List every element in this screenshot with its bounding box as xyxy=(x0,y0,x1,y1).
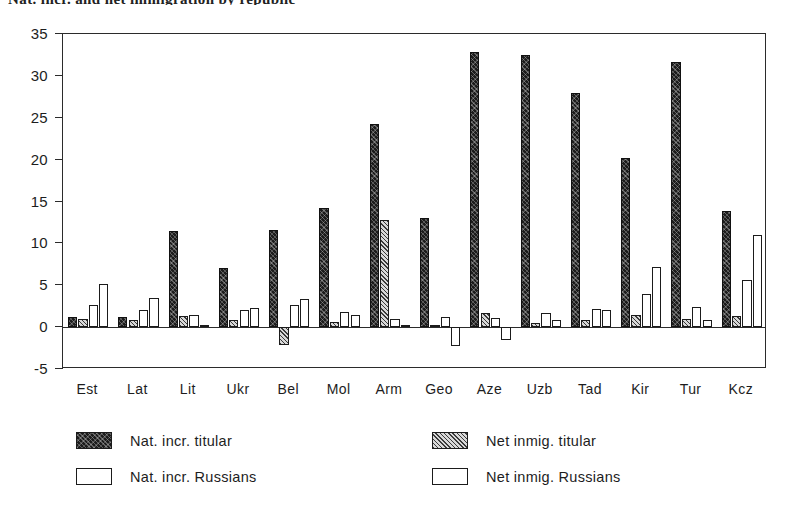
bar-nat-incr-russians xyxy=(89,305,98,327)
bar-net-inmig-russians xyxy=(99,284,108,328)
bar-net-inmig-russians xyxy=(652,267,661,327)
bar-net-inmig-titular xyxy=(682,319,691,327)
legend-label: Net inmig. titular xyxy=(486,433,596,449)
bar-net-inmig-titular xyxy=(531,323,540,327)
plot-inner xyxy=(63,34,765,367)
bar-nat-incr-russians xyxy=(240,310,249,328)
bar-net-inmig-russians xyxy=(149,298,158,327)
bar-nat-incr-titular xyxy=(722,211,731,327)
bar-nat-incr-titular xyxy=(219,268,228,327)
bar-net-inmig-titular xyxy=(481,313,490,327)
bar-net-inmig-russians xyxy=(300,299,309,327)
bar-nat-incr-russians xyxy=(139,310,148,327)
bar-net-inmig-titular xyxy=(430,325,439,328)
bar-net-inmig-russians xyxy=(451,327,460,345)
y-tick-label-30: 30 xyxy=(2,66,48,83)
bar-net-inmig-russians xyxy=(401,325,410,327)
legend-swatch-icon xyxy=(76,468,112,485)
bar-nat-incr-russians xyxy=(742,280,751,327)
bar-nat-incr-titular xyxy=(169,231,178,327)
chart-figure: Nat. incr. and net immigration by republ… xyxy=(0,0,786,513)
bar-nat-incr-russians xyxy=(290,305,299,327)
bar-nat-incr-russians xyxy=(541,313,550,327)
bar-net-inmig-titular xyxy=(330,322,339,327)
bar-net-inmig-titular xyxy=(229,320,238,327)
bar-nat-incr-russians xyxy=(491,318,500,327)
y-tick-label-25: 25 xyxy=(2,108,48,125)
y-tick-label-0: 0 xyxy=(2,318,48,335)
bar-net-inmig-titular xyxy=(732,316,741,327)
bar-nat-incr-titular xyxy=(319,208,328,327)
legend-label: Nat. incr. titular xyxy=(130,433,232,449)
legend-entry-nat-incr-titular: Nat. incr. titular xyxy=(76,432,232,449)
bar-nat-incr-titular xyxy=(571,93,580,328)
bar-net-inmig-titular xyxy=(631,315,640,328)
bar-net-inmig-titular xyxy=(279,327,288,345)
bar-net-inmig-titular xyxy=(129,320,138,328)
y-tick-label-35: 35 xyxy=(2,25,48,42)
legend-entry-nat-incr-russians: Nat. incr. Russians xyxy=(76,468,257,485)
bar-nat-incr-russians xyxy=(692,307,701,327)
bar-nat-incr-titular xyxy=(521,55,530,327)
bar-nat-incr-russians xyxy=(390,319,399,327)
bar-net-inmig-russians xyxy=(200,325,209,327)
bar-nat-incr-russians xyxy=(441,317,450,327)
bar-net-inmig-russians xyxy=(250,308,259,327)
y-tick-label-5: 5 xyxy=(2,276,48,293)
chart-legend: Nat. incr. titularNat. incr. RussiansNet… xyxy=(0,424,786,504)
bar-net-inmig-russians xyxy=(602,310,611,327)
figure-title-cropped: Nat. incr. and net immigration by republ… xyxy=(8,0,708,5)
legend-label: Net inmig. Russians xyxy=(486,469,621,485)
legend-label: Nat. incr. Russians xyxy=(130,469,257,485)
bar-nat-incr-titular xyxy=(420,218,429,327)
bar-nat-incr-titular xyxy=(370,124,379,328)
bar-net-inmig-russians xyxy=(703,320,712,328)
bar-net-inmig-russians xyxy=(501,327,510,340)
y-tick-label-10: 10 xyxy=(2,234,48,251)
bar-net-inmig-titular xyxy=(179,316,188,327)
zero-baseline xyxy=(63,327,765,328)
bar-net-inmig-russians xyxy=(753,235,762,327)
bar-nat-incr-russians xyxy=(592,309,601,327)
bar-net-inmig-russians xyxy=(351,315,360,327)
bar-nat-incr-titular xyxy=(671,62,680,327)
bar-nat-incr-russians xyxy=(642,294,651,327)
legend-entry-net-inmig-titular: Net inmig. titular xyxy=(432,432,596,449)
legend-swatch-icon xyxy=(432,432,468,449)
y-tick-label-15: 15 xyxy=(2,192,48,209)
x-tick-label-kcz: Kcz xyxy=(711,381,771,397)
plot-area xyxy=(62,33,766,368)
bar-nat-incr-titular xyxy=(470,52,479,328)
legend-swatch-icon xyxy=(76,432,112,449)
bar-nat-incr-titular xyxy=(621,158,630,327)
bar-net-inmig-titular xyxy=(581,320,590,328)
legend-entry-net-inmig-russians: Net inmig. Russians xyxy=(432,468,621,485)
bar-net-inmig-titular xyxy=(380,220,389,327)
bar-net-inmig-russians xyxy=(552,320,561,328)
bar-net-inmig-titular xyxy=(78,319,87,327)
y-tick-label-20: 20 xyxy=(2,150,48,167)
bar-nat-incr-titular xyxy=(269,230,278,327)
bar-nat-incr-russians xyxy=(340,312,349,327)
bar-nat-incr-titular xyxy=(118,317,127,327)
legend-swatch-icon xyxy=(432,468,468,485)
bar-nat-incr-russians xyxy=(189,315,198,328)
y-tick-label-neg5: -5 xyxy=(2,360,48,377)
y-tick-mark xyxy=(55,368,63,369)
bar-nat-incr-titular xyxy=(68,317,77,327)
